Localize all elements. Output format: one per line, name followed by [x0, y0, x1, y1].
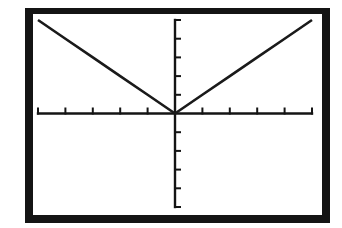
graph-plot-area	[0, 0, 342, 228]
calculator-graph-screen: Graph of y = |x|	[0, 0, 342, 228]
